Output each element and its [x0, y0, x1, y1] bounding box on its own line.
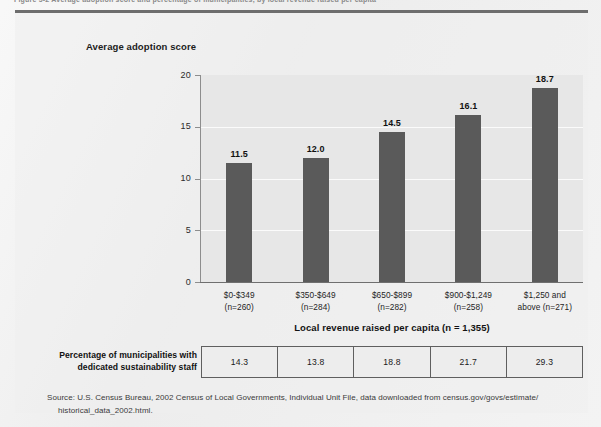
y-axis-tick: [195, 179, 200, 180]
y-axis-tick: [195, 127, 200, 128]
source-note: Source: U.S. Census Bureau, 2002 Census …: [47, 391, 595, 417]
x-axis-line: [200, 282, 583, 283]
y-axis-tick: [195, 282, 200, 283]
bar: [532, 88, 558, 282]
figure-panel: Average adoption score Local revenue rai…: [15, 13, 588, 413]
x-axis-category-label: $1,250 andabove (n=271): [500, 290, 590, 313]
x-axis-category-label-line: above (n=271): [500, 302, 590, 314]
table-row-label-line1: Percentage of municipalities with: [59, 350, 197, 360]
table-cell: 29.3: [507, 347, 582, 377]
bar: [226, 163, 252, 282]
bar-value-label: 16.1: [438, 101, 498, 111]
y-axis-tick-label: 10: [165, 173, 191, 183]
y-axis-tick-label: 20: [165, 70, 191, 80]
percentage-data-table: 14.313.818.821.729.3: [201, 346, 583, 378]
plot-area: [201, 75, 583, 282]
table-cell: 13.8: [278, 347, 354, 377]
figure-caption: Figure 5-2 Average adoption score and pe…: [14, 0, 376, 3]
source-line-1: Source: U.S. Census Bureau, 2002 Census …: [47, 391, 595, 404]
table-cell: 18.8: [354, 347, 430, 377]
figure-caption-strip: Figure 5-2 Average adoption score and pe…: [0, 0, 601, 8]
table-row-label-line2: dedicated sustainability staff: [78, 362, 197, 372]
x-axis-title: Local revenue raised per capita (n = 1,3…: [201, 322, 583, 333]
y-axis-title: Average adoption score: [86, 41, 196, 52]
y-axis-line: [200, 75, 201, 283]
bar: [303, 158, 329, 282]
bar: [379, 132, 405, 282]
y-axis-tick: [195, 75, 200, 76]
y-axis-tick-label: 15: [165, 121, 191, 131]
table-cell: 14.3: [202, 347, 278, 377]
y-axis-tick: [195, 230, 200, 231]
bar-value-label: 12.0: [286, 144, 346, 154]
bar-value-label: 14.5: [362, 118, 422, 128]
y-axis-tick-label: 5: [165, 225, 191, 235]
source-line-2: historical_data_2002.html.: [47, 404, 595, 417]
table-cell: 21.7: [431, 347, 507, 377]
bar: [455, 115, 481, 282]
y-axis-tick-label: 0: [165, 277, 191, 287]
table-row-label: Percentage of municipalities with dedica…: [45, 349, 197, 373]
x-axis-category-label-line: $1,250 and: [500, 290, 590, 302]
bar-value-label: 18.7: [515, 74, 575, 84]
bar-value-label: 11.5: [209, 149, 269, 159]
